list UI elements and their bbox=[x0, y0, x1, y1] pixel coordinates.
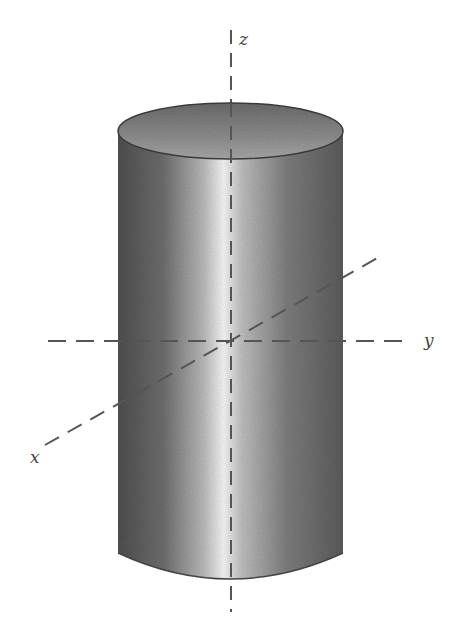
cylinder-diagram: z y x bbox=[0, 0, 460, 642]
x-axis-label: x bbox=[30, 447, 40, 467]
z-axis-label: z bbox=[238, 29, 249, 49]
y-axis-label: y bbox=[423, 330, 434, 350]
